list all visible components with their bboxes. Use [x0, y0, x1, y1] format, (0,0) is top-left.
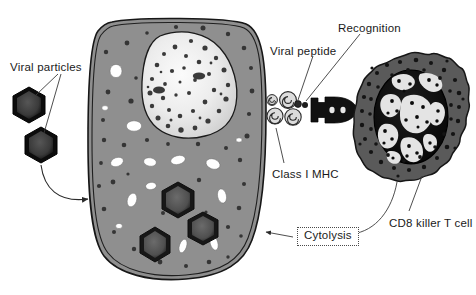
viral-peptide-leader	[298, 56, 313, 100]
class-i-mhc-complexes	[267, 92, 308, 126]
mhc-molecule	[285, 109, 301, 125]
label-cd8-killer-t-cell: CD8 killer T cell	[389, 218, 473, 230]
mhc-molecule	[267, 95, 278, 106]
viral-particle-lower	[25, 127, 57, 163]
class-i-mhc-leader	[276, 128, 284, 163]
mhc-molecule	[280, 92, 297, 109]
label-viral-peptide: Viral peptide	[270, 46, 336, 58]
virus-entry-arrow	[41, 165, 88, 200]
diagram-canvas: Viral particles Viral peptide Recognitio…	[0, 0, 476, 295]
t-cell-receptor	[311, 97, 356, 123]
viral-particle-upper	[13, 87, 45, 123]
free-viral-particles	[13, 87, 57, 163]
label-recognition: Recognition	[338, 23, 401, 35]
label-viral-particles: Viral particles	[10, 62, 82, 74]
immunology-diagram	[0, 0, 476, 295]
cytolysis-arrow	[266, 232, 293, 237]
mhc-molecule	[267, 108, 283, 124]
infected-cell	[88, 18, 266, 279]
label-class-i-mhc: Class I MHC	[272, 169, 339, 181]
cd8-t-cell-leader	[409, 176, 422, 211]
cd8-killer-t-cell	[353, 52, 469, 181]
viral-peptide	[295, 101, 302, 108]
label-cytolysis: Cytolysis	[297, 227, 359, 246]
